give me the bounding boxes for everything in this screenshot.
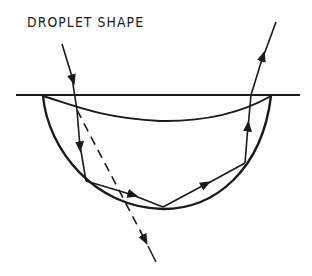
exit-ray [251, 56, 263, 95]
exit-ray-tail [262, 22, 276, 60]
undeviated-ray-tail [148, 246, 156, 262]
internal-ray-1 [86, 181, 133, 195]
droplet-diagram [0, 0, 312, 276]
internal-ray-3b [248, 95, 251, 128]
undeviated-ray [77, 110, 145, 240]
internal-ray-3 [245, 126, 248, 163]
incident-ray [62, 44, 73, 80]
